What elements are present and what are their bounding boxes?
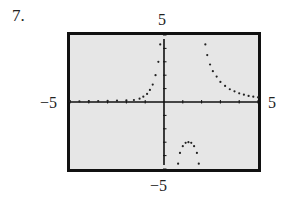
data-point: [212, 70, 214, 72]
data-point: [159, 43, 161, 45]
data-point: [209, 63, 211, 65]
data-point: [198, 163, 200, 165]
data-point: [219, 81, 221, 83]
data-point: [204, 43, 206, 45]
data-point: [177, 163, 179, 165]
data-point: [138, 98, 140, 100]
ymax-label: 5: [158, 12, 166, 28]
problem-number: 7.: [12, 6, 25, 26]
data-point: [238, 92, 240, 94]
data-point: [78, 100, 80, 102]
data-point: [157, 61, 159, 63]
data-point: [190, 142, 192, 144]
data-point: [97, 100, 99, 102]
xmax-label: 5: [268, 95, 276, 111]
data-point: [116, 100, 118, 102]
data-point: [229, 88, 231, 90]
data-point: [257, 96, 259, 98]
data-point: [185, 142, 187, 144]
data-point: [152, 83, 154, 85]
graph-plot: [67, 32, 261, 172]
data-point: [206, 54, 208, 56]
data-point: [187, 141, 189, 143]
xmin-label: −5: [40, 95, 57, 111]
data-point: [125, 99, 127, 101]
ymin-label: −5: [150, 178, 167, 194]
data-point: [252, 96, 254, 98]
data-point: [146, 93, 148, 95]
data-point: [179, 152, 181, 154]
data-point: [88, 100, 90, 102]
data-point: [224, 85, 226, 87]
data-point: [182, 145, 184, 147]
data-point: [107, 100, 109, 102]
data-point: [149, 89, 151, 91]
calculator-screen: [67, 32, 261, 172]
data-point: [154, 74, 156, 76]
data-point: [248, 95, 250, 97]
data-point: [233, 90, 235, 92]
data-point: [196, 152, 198, 154]
data-point: [216, 75, 218, 77]
data-point: [133, 99, 135, 101]
data-point: [243, 94, 245, 96]
data-point: [69, 100, 71, 102]
data-point: [142, 96, 144, 98]
data-point: [193, 145, 195, 147]
